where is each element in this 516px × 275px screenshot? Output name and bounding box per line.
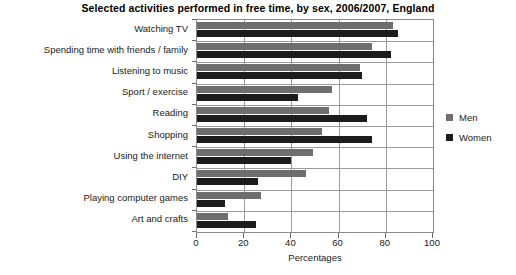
- bar-women: [197, 221, 256, 228]
- y-axis-label: Art and crafts: [132, 213, 189, 224]
- bar-men: [197, 128, 322, 135]
- bar-group: [197, 41, 433, 62]
- bar-group: [197, 147, 433, 168]
- chart-page: Selected activities performed in free ti…: [0, 0, 516, 275]
- bar-women: [197, 30, 398, 37]
- bar-women: [197, 51, 391, 58]
- bar-women: [197, 157, 291, 164]
- x-axis-tick-label: 0: [193, 237, 198, 248]
- bar-men: [197, 86, 332, 93]
- bar-group: [197, 105, 433, 126]
- bar-group: [197, 190, 433, 211]
- bar-women: [197, 115, 367, 122]
- y-axis-label: Listening to music: [112, 65, 188, 76]
- chart-legend: MenWomen: [446, 110, 512, 150]
- y-axis-label: Shopping: [148, 129, 188, 140]
- bar-men: [197, 22, 393, 29]
- y-axis-label: Sport / exercise: [122, 86, 188, 97]
- plot-area: [196, 19, 434, 233]
- bar-group: [197, 62, 433, 83]
- legend-item-men[interactable]: Men: [446, 110, 512, 125]
- x-axis-tick-label: 40: [285, 237, 296, 248]
- legend-swatch-icon: [446, 134, 453, 141]
- bar-women: [197, 200, 225, 207]
- y-axis-label: Playing computer games: [83, 192, 188, 203]
- x-axis-tick-labels: 020406080100: [196, 237, 434, 251]
- y-axis-label: DIY: [172, 171, 188, 182]
- x-axis-title: Percentages: [196, 252, 434, 263]
- legend-label: Women: [459, 132, 492, 143]
- bar-men: [197, 107, 329, 114]
- bar-women: [197, 72, 362, 79]
- bar-women: [197, 178, 258, 185]
- bar-men: [197, 170, 306, 177]
- bar-men: [197, 213, 228, 220]
- bar-women: [197, 136, 372, 143]
- chart-title: Selected activities performed in free ti…: [0, 2, 516, 14]
- bar-group: [197, 211, 433, 232]
- bar-men: [197, 192, 261, 199]
- bar-women: [197, 94, 298, 101]
- bar-men: [197, 149, 313, 156]
- y-axis-label: Spending time with friends / family: [44, 44, 188, 55]
- bar-group: [197, 84, 433, 105]
- bar-group: [197, 20, 433, 41]
- x-axis-tick-label: 60: [332, 237, 343, 248]
- legend-label: Men: [459, 112, 477, 123]
- bar-men: [197, 43, 372, 50]
- x-axis-tick-label: 20: [238, 237, 249, 248]
- bar-group: [197, 126, 433, 147]
- y-axis-category-labels: Watching TVSpending time with friends / …: [0, 19, 192, 233]
- legend-item-women[interactable]: Women: [446, 130, 512, 145]
- legend-swatch-icon: [446, 114, 453, 121]
- bar-group: [197, 168, 433, 189]
- x-axis-tick-label: 80: [380, 237, 391, 248]
- bar-men: [197, 64, 360, 71]
- x-axis-tick-label: 100: [424, 237, 440, 248]
- y-axis-label: Reading: [153, 107, 188, 118]
- y-axis-label: Watching TV: [134, 23, 188, 34]
- y-axis-label: Using the internet: [114, 150, 188, 161]
